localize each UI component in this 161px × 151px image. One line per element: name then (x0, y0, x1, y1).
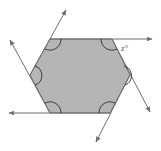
hexagon-diagram: z° (0, 0, 161, 151)
exterior-angle-label: z° (120, 43, 129, 53)
